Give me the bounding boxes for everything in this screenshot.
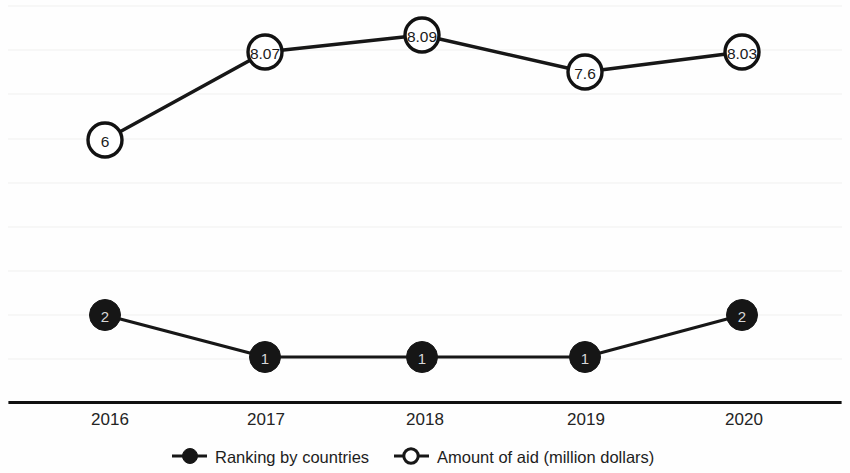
series-ranking-by-countries: 2 1 1 1 2 xyxy=(90,300,758,373)
data-point-label: 8.03 xyxy=(727,45,757,62)
data-point-label: 1 xyxy=(261,350,269,367)
x-tick-label: 2017 xyxy=(247,410,285,429)
data-point-label: 2 xyxy=(101,308,109,325)
data-point-label: 2 xyxy=(738,308,746,325)
data-point-label: 7.6 xyxy=(574,65,596,82)
chart-figure: 6 8.07 8.09 7.6 8.03 2 1 1 1 2 2016 2017 xyxy=(0,0,850,473)
legend-item-amount-of-aid[interactable]: Amount of aid (million dollars) xyxy=(394,448,654,466)
legend-item-label: Ranking by countries xyxy=(215,448,369,466)
x-axis-tick-labels: 2016 2017 2018 2019 2020 xyxy=(91,410,763,429)
data-point-label: 1 xyxy=(581,350,589,367)
legend-item-label: Amount of aid (million dollars) xyxy=(437,448,654,466)
hollow-circle-icon xyxy=(404,449,418,463)
chart-legend: Ranking by countries Amount of aid (mill… xyxy=(172,448,654,466)
filled-circle-icon xyxy=(183,449,198,464)
data-point-label: 8.09 xyxy=(407,28,437,45)
line-chart: 6 8.07 8.09 7.6 8.03 2 1 1 1 2 2016 2017 xyxy=(0,0,850,473)
series-amount-of-aid: 6 8.07 8.09 7.6 8.03 xyxy=(88,18,759,157)
legend-item-ranking-by-countries[interactable]: Ranking by countries xyxy=(172,448,369,466)
data-point-label: 6 xyxy=(101,133,110,150)
data-point-label: 1 xyxy=(418,350,426,367)
x-tick-label: 2018 xyxy=(406,410,444,429)
x-tick-label: 2016 xyxy=(91,410,129,429)
x-tick-label: 2020 xyxy=(725,410,763,429)
data-point-label: 8.07 xyxy=(250,45,280,62)
gridlines xyxy=(8,6,842,359)
x-tick-label: 2019 xyxy=(567,410,605,429)
